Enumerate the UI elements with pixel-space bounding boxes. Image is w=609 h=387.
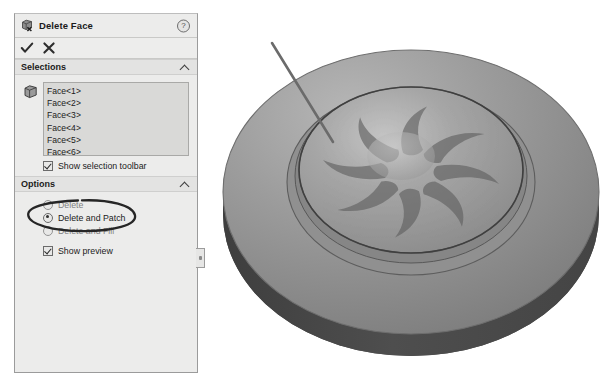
selections-body: Face<1> Face<2> Face<3> Face<4> Face<5> … — [15, 75, 197, 176]
impeller-bowl — [299, 87, 523, 253]
show-preview-label: Show preview — [58, 246, 113, 256]
section-header-options[interactable]: Options — [15, 176, 197, 192]
radio-delete-and-fill[interactable] — [43, 226, 53, 236]
chevron-up-icon-options[interactable] — [181, 181, 190, 187]
list-item[interactable]: Face<1> — [47, 85, 185, 97]
section-label-selections: Selections — [21, 62, 66, 72]
list-item[interactable]: Face<5> — [47, 134, 185, 146]
radio-row-delete-and-patch[interactable]: Delete and Patch — [43, 211, 189, 224]
cancel-x-button[interactable] — [42, 41, 56, 55]
show-preview-checkbox[interactable] — [43, 246, 53, 256]
selection-listbox[interactable]: Face<1> Face<2> Face<3> Face<4> Face<5> … — [43, 82, 189, 156]
section-header-selections[interactable]: Selections — [15, 59, 197, 75]
section-label-options: Options — [21, 179, 55, 189]
radio-label-delete-and-patch: Delete and Patch — [58, 213, 126, 223]
radio-label-delete: Delete — [58, 200, 83, 210]
panel-pin-dot — [199, 256, 202, 260]
chevron-up-icon-selections[interactable] — [181, 64, 190, 70]
list-item[interactable]: Face<3> — [47, 109, 185, 121]
show-selection-toolbar-row[interactable]: Show selection toolbar — [43, 161, 189, 171]
ok-checkmark-button[interactable] — [20, 41, 34, 55]
property-manager-panel: Delete Face ? Selections — [14, 13, 198, 373]
graphics-area[interactable] — [215, 0, 609, 387]
face-cube-icon — [23, 84, 39, 100]
radio-delete-and-patch[interactable] — [43, 213, 53, 223]
page-title: Delete Face — [39, 20, 93, 31]
radio-label-delete-and-fill: Delete and Fill — [58, 226, 114, 236]
help-icon[interactable]: ? — [177, 19, 190, 32]
radio-delete[interactable] — [43, 200, 53, 210]
panel-action-bar — [15, 38, 197, 59]
radio-row-delete[interactable]: Delete — [43, 198, 189, 211]
list-item[interactable]: Face<4> — [47, 122, 185, 134]
list-item[interactable]: Face<2> — [47, 97, 185, 109]
options-body: Delete Delete and Patch Delete and Fill … — [15, 192, 197, 264]
panel-pin-tab[interactable] — [196, 248, 205, 268]
panel-title-bar: Delete Face ? — [15, 14, 197, 38]
list-item[interactable]: Face<6> — [47, 146, 185, 156]
show-selection-toolbar-checkbox[interactable] — [43, 161, 53, 171]
radio-row-delete-and-fill[interactable]: Delete and Fill — [43, 224, 189, 237]
show-selection-toolbar-label: Show selection toolbar — [58, 161, 147, 171]
delete-face-cube-icon — [21, 19, 34, 32]
show-preview-row[interactable]: Show preview — [43, 246, 189, 256]
